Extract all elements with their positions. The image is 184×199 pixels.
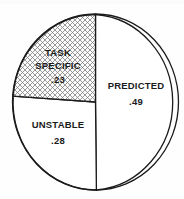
pie-slice-unstable[interactable] xyxy=(13,96,96,190)
pie-chart-svg xyxy=(0,0,184,199)
pie-chart-figure: PREDICTED .49 TASK SPECIFIC .23 UNSTABLE… xyxy=(0,0,184,199)
pie-slice-task-specific[interactable] xyxy=(13,15,95,103)
pie-slice-predicted[interactable] xyxy=(96,15,173,191)
